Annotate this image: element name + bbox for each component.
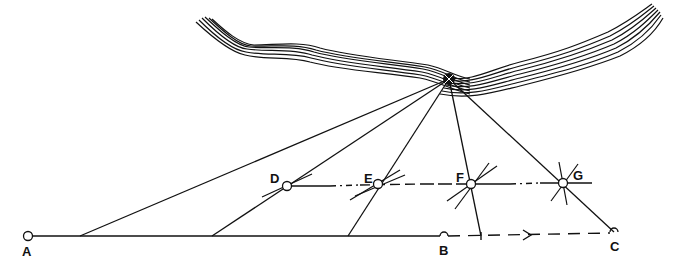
traverse-line bbox=[292, 183, 592, 186]
sight-lines bbox=[80, 79, 614, 236]
label-g: G bbox=[573, 169, 583, 182]
label-b: B bbox=[439, 244, 448, 257]
station-g-marker bbox=[559, 179, 568, 188]
label-a: A bbox=[22, 245, 31, 258]
point-b-marker bbox=[440, 232, 448, 236]
station-e-marker bbox=[374, 180, 383, 189]
label-f: F bbox=[456, 171, 464, 184]
station-f-marker bbox=[467, 180, 476, 189]
summit-target-icon bbox=[443, 73, 455, 85]
ridge-contours bbox=[196, 4, 663, 96]
label-e: E bbox=[364, 172, 373, 185]
baseline bbox=[33, 230, 610, 240]
station-d-marker bbox=[283, 182, 292, 191]
triangulation-diagram bbox=[0, 0, 683, 275]
point-a-marker bbox=[24, 232, 33, 241]
station-markers bbox=[24, 179, 619, 241]
label-c: C bbox=[610, 240, 619, 253]
label-d: D bbox=[270, 172, 279, 185]
